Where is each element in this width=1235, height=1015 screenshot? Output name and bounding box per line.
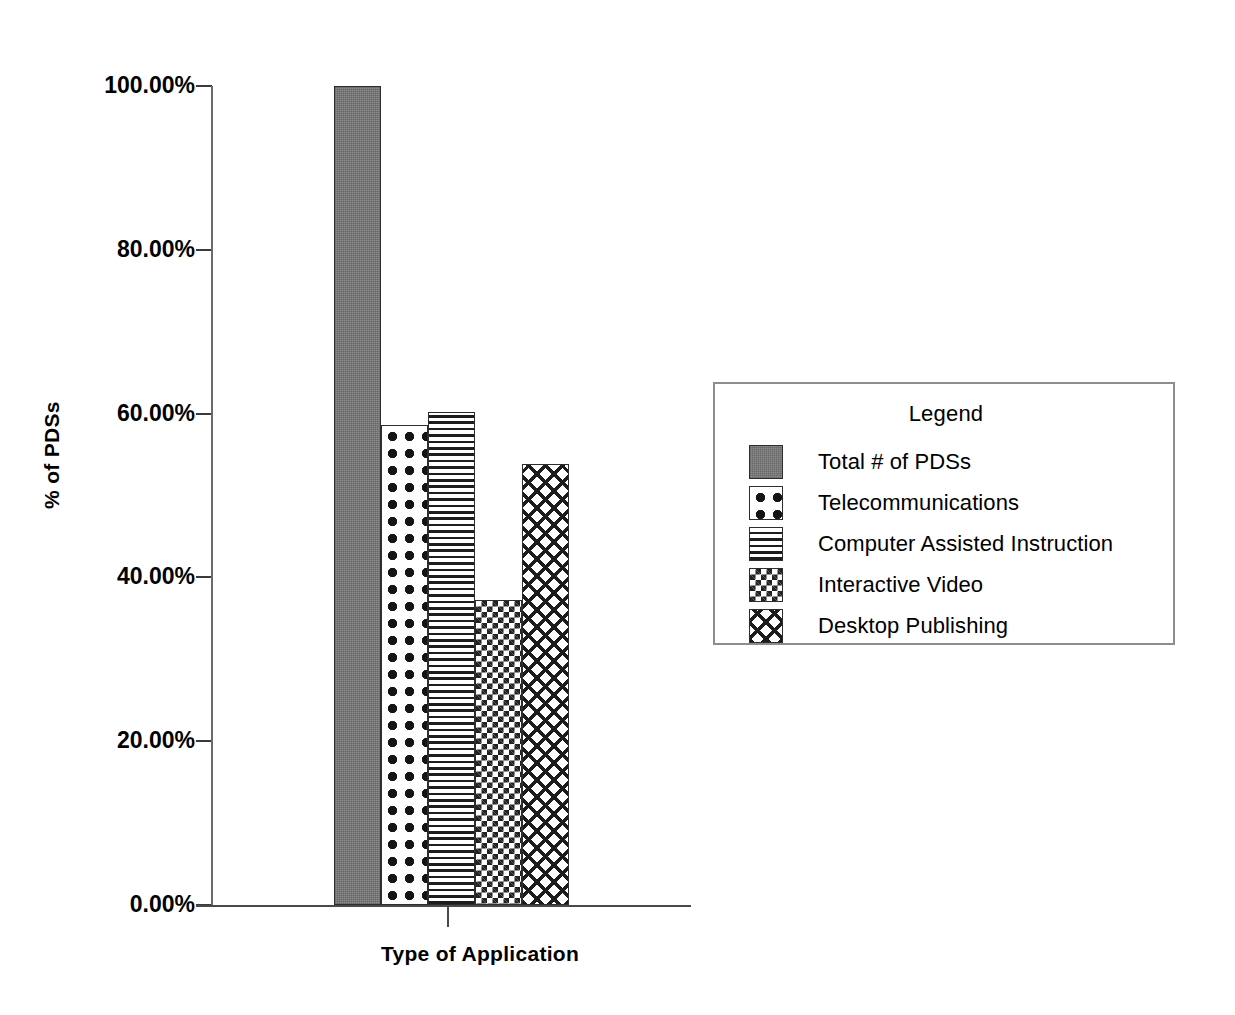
legend-swatch-icon (749, 568, 783, 602)
legend-title: Legend (715, 401, 1177, 427)
y-axis-tick-text: 80.00% (75, 238, 195, 261)
y-axis-title: % of PDSs (40, 365, 64, 545)
y-axis-tick-text: 40.00% (75, 565, 195, 588)
legend-item: Total # of PDSs (749, 441, 1169, 482)
y-axis-tick-mark (196, 413, 212, 415)
legend-swatch-icon (749, 486, 783, 520)
y-axis-tick-mark (196, 740, 212, 742)
y-axis-tick-text: 100.00% (75, 74, 195, 97)
legend-item: Computer Assisted Instruction (749, 523, 1169, 564)
legend-item-label: Desktop Publishing (818, 613, 1008, 639)
legend: Legend Total # of PDSsTelecommunications… (713, 382, 1175, 645)
y-axis-tick-text: 60.00% (75, 402, 195, 425)
legend-item: Telecommunications (749, 482, 1169, 523)
legend-item-label: Interactive Video (818, 572, 983, 598)
legend-swatch-icon (749, 445, 783, 479)
bar-chart: % of PDSs 0.00%20.00%40.00%60.00%80.00%1… (0, 0, 1235, 1015)
x-axis-line (196, 905, 691, 907)
legend-item-list: Total # of PDSsTelecommunicationsCompute… (749, 441, 1169, 646)
y-axis-tick-mark (196, 249, 212, 251)
bar-telecommunications (381, 425, 428, 905)
legend-item-label: Telecommunications (818, 490, 1019, 516)
bar-desktop-publishing (522, 464, 569, 905)
x-axis-title: Type of Application (280, 942, 680, 966)
y-axis-tick-text: 20.00% (75, 729, 195, 752)
x-axis-category-tick (447, 907, 449, 927)
y-axis-tick-mark (196, 85, 212, 87)
legend-item: Interactive Video (749, 564, 1169, 605)
legend-item: Desktop Publishing (749, 605, 1169, 646)
legend-swatch-icon (749, 527, 783, 561)
bar-computer-assisted-instruction (428, 412, 475, 905)
bar-interactive-video (475, 600, 522, 905)
y-axis-tick-text: 0.00% (75, 893, 195, 916)
legend-swatch-icon (749, 609, 783, 643)
legend-item-label: Total # of PDSs (818, 449, 971, 475)
legend-item-label: Computer Assisted Instruction (818, 531, 1113, 557)
plot-area (211, 86, 691, 905)
bar-total-of-pdss (334, 86, 381, 905)
y-axis-tick-mark (196, 576, 212, 578)
